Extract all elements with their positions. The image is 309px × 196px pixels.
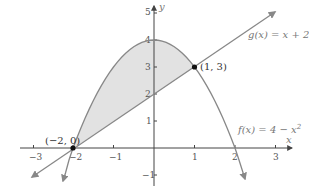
x-tick-label: 1 (192, 152, 198, 162)
f-function-label-main: f(x) = 4 − x (237, 124, 297, 135)
g-function-label: g(x) = x + 2 (248, 29, 309, 40)
graph-canvas: −3 −2 −1 1 2 3 −1 1 2 3 4 5 x y (−2, 0) … (0, 0, 309, 196)
y-tick-label: 5 (145, 7, 151, 17)
point-label: (1, 3) (200, 61, 227, 72)
intersection-point (70, 145, 75, 150)
f-function-label: f(x) = 4 − x2 (237, 123, 302, 135)
intersection-point (192, 64, 197, 69)
y-tick-label: 1 (146, 116, 152, 126)
x-axis-label: x (286, 134, 292, 145)
f-function-label-exponent: 2 (296, 123, 302, 131)
shaded-region-fill (73, 40, 195, 148)
x-tick-label: −3 (29, 152, 43, 162)
y-tick-label: 3 (145, 62, 151, 72)
y-axis-label: y (158, 1, 165, 12)
x-tick-label: 3 (273, 152, 279, 162)
x-tick-label: −1 (109, 152, 122, 162)
y-tick-label: −1 (142, 170, 155, 180)
point-label: (−2, 0) (45, 135, 80, 146)
